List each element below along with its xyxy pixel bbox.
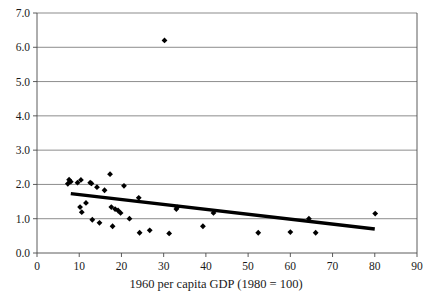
y-tick-label: 0.0 [16, 247, 31, 259]
data-point [200, 223, 206, 229]
x-tick-label: 70 [327, 260, 339, 272]
data-point [97, 220, 103, 226]
data-point [166, 231, 172, 237]
data-point [77, 204, 83, 210]
data-point [127, 216, 133, 222]
x-tick-label: 50 [242, 260, 254, 272]
x-tick-label: 60 [285, 260, 297, 272]
data-point [147, 227, 153, 233]
data-point [110, 223, 116, 229]
x-tick-label: 30 [158, 260, 170, 272]
x-tick-label: 0 [34, 260, 40, 272]
x-axis-ticks [37, 253, 417, 257]
x-axis-tick-labels: 0102030405060708090 [34, 260, 423, 272]
y-tick-label: 1.0 [16, 213, 31, 225]
data-point [162, 38, 168, 44]
y-tick-label: 6.0 [16, 41, 31, 53]
data-point [89, 217, 95, 223]
y-tick-label: 4.0 [16, 110, 31, 122]
horizontal-gridlines [37, 13, 417, 219]
y-axis-tick-labels: 0.01.02.03.04.05.06.07.0 [16, 7, 31, 259]
data-point [83, 200, 89, 206]
x-axis-label: 1960 per capita GDP (1980 = 100) [129, 277, 302, 291]
data-point [102, 187, 108, 193]
x-tick-label: 40 [200, 260, 212, 272]
y-tick-label: 3.0 [16, 144, 31, 156]
y-tick-label: 5.0 [16, 76, 31, 88]
x-tick-label: 20 [116, 260, 128, 272]
data-point [372, 211, 378, 217]
data-point [121, 183, 127, 189]
chart-canvas: 0.01.02.03.04.05.06.07.0 010203040506070… [0, 0, 432, 299]
data-point [313, 230, 319, 236]
y-tick-label: 7.0 [16, 7, 31, 19]
data-point-markers [65, 38, 378, 237]
scatter-plot-figure: 0.01.02.03.04.05.06.07.0 010203040506070… [0, 0, 432, 299]
data-point [107, 171, 113, 177]
data-point [94, 184, 100, 190]
x-tick-label: 80 [369, 260, 381, 272]
x-tick-label: 90 [411, 260, 423, 272]
y-axis-ticks [33, 13, 37, 253]
x-tick-label: 10 [73, 260, 85, 272]
y-tick-label: 2.0 [16, 178, 31, 190]
data-point [79, 209, 85, 215]
data-point [287, 229, 293, 235]
data-point [255, 230, 261, 236]
data-point [137, 230, 143, 236]
